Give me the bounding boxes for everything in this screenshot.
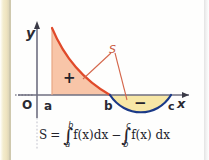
integral-sign-second: ∫cb [121,129,131,142]
x-axis-label: x [177,97,185,110]
integral-lower-limit-second: b [123,142,128,148]
integrand-second: f(x) dx [131,128,170,142]
formula-lhs: S [39,128,47,142]
integral-sign-first: ∫ba [63,129,73,142]
integral-upper-limit-second: c [126,123,130,129]
y-axis-label: y [26,26,35,40]
tick-label-b: b [104,100,113,112]
negative-region-sign: − [134,96,147,111]
formula-operator: − [111,128,121,142]
tick-label-a: a [44,100,52,112]
integrand-first: f(x)dx [73,128,108,142]
area-callout-label: S [109,44,116,55]
integral-area-figure: y x O a b c + − S S=∫baf(x)dx−∫cbf(x) dx [0,0,209,160]
callout-leader-to-negative [115,53,127,100]
integral-lower-limit-first: a [65,142,70,148]
integral-upper-limit-first: b [68,123,73,129]
callout-leader-to-positive [83,53,111,79]
tick-label-c: c [168,101,175,112]
origin-label: O [22,99,32,111]
integral-formula: S=∫baf(x)dx−∫cbf(x) dx [0,128,209,142]
positive-region-sign: + [63,71,76,86]
formula-equals: = [50,128,60,142]
